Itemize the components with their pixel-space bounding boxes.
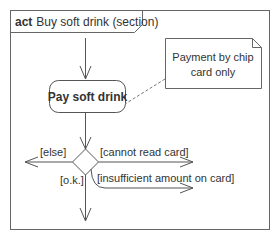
flow-to-decision [80, 113, 91, 149]
frame-keyword: act [15, 15, 32, 29]
note-line-1: Payment by chip [172, 51, 253, 63]
guard-ok: [o.k.] [60, 174, 84, 186]
activity-diagram: actBuy soft drink (section) Pay soft dri… [0, 0, 277, 241]
else-flow [25, 157, 73, 167]
guard-cannot-read-card: [cannot read card] [100, 146, 189, 158]
frame-name: Buy soft drink (section) [36, 15, 158, 29]
cannot-read-flow [99, 157, 194, 167]
action-label: Pay soft drink [48, 90, 128, 104]
note-anchor-line [125, 79, 165, 104]
guard-insufficient-amount: [insufficient amount on card] [97, 172, 234, 184]
incoming-flow [80, 38, 91, 79]
guard-else: [else] [40, 146, 66, 158]
decision-node[interactable] [73, 149, 99, 175]
note-box [166, 39, 262, 89]
note-line-2: card only [191, 66, 236, 78]
frame-title: actBuy soft drink (section) [15, 15, 158, 29]
